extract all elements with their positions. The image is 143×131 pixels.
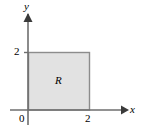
y-axis-tick-label-2: 2 (14, 46, 20, 57)
x-axis-label: x (130, 104, 135, 115)
x-axis-tick-label-2: 2 (85, 113, 91, 124)
region-r-label: R (55, 75, 62, 86)
y-axis-arrowhead (24, 13, 33, 22)
region-r-figure: 2 0 2 y x R (0, 0, 143, 131)
origin-label: 0 (19, 113, 25, 124)
x-axis-arrowhead (121, 106, 129, 115)
y-axis-label: y (24, 1, 29, 12)
